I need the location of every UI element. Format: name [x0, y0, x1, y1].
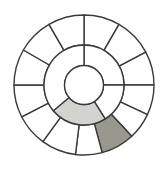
- wheel-diagram: [0, 0, 165, 171]
- wheel-svg: [0, 0, 165, 171]
- center-hole: [65, 66, 104, 105]
